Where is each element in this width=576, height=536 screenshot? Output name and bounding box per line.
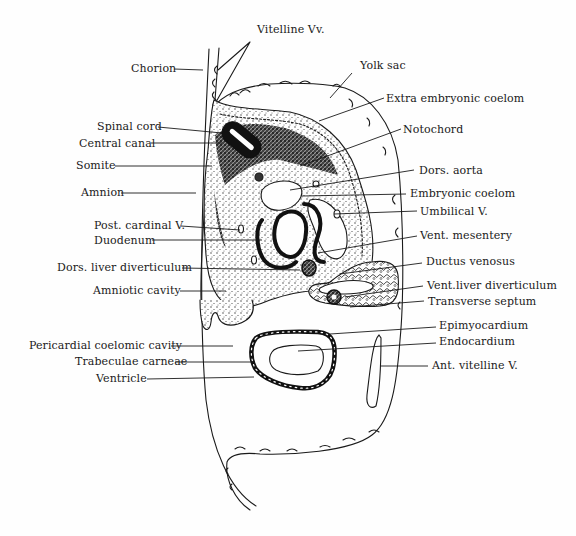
label-umbilical-v: Umbilical V. <box>420 206 488 218</box>
embryo-cross-section-diagram: Vitelline Vv. Chorion Yolk sac Extra emb… <box>0 0 576 536</box>
label-ventricle: Ventricle <box>96 373 147 385</box>
epimyocardium <box>251 332 334 389</box>
label-ant-vitelline-v: Ant. vitelline V. <box>432 360 518 372</box>
label-spinal-cord: Spinal cord <box>97 121 162 133</box>
amnion-fold <box>200 300 253 329</box>
label-duodenum: Duodenum <box>94 235 155 247</box>
label-vent-liver-diverticulum: Vent.liver diverticulum <box>427 280 557 292</box>
post-cardinal-vein <box>239 225 244 233</box>
label-endocardium: Endocardium <box>439 336 515 348</box>
label-pericardial-coelomic-cavity: Pericardial coelomic cavity <box>29 340 182 352</box>
label-vitelline-vv: Vitelline Vv. <box>257 24 325 36</box>
label-amnion: Amnion <box>81 187 124 199</box>
label-embryonic-coelom: Embryonic coelom <box>410 188 515 200</box>
vent-mesentery-vessel <box>302 260 316 276</box>
notochord <box>255 173 263 181</box>
label-extra-embryonic-coelom: Extra embryonic coelom <box>386 93 524 105</box>
label-notochord: Notochord <box>403 124 463 136</box>
label-post-cardinal-v: Post. cardinal V. <box>94 220 185 232</box>
label-somite: Somite <box>76 160 116 172</box>
label-ductus-venosus: Ductus venosus <box>426 256 515 268</box>
label-vent-mesentery: Vent. mesentery <box>420 230 512 242</box>
label-dors-liver-diverticulum: Dors. liver diverticulum <box>57 262 192 274</box>
label-epimyocardium: Epimyocardium <box>439 320 528 332</box>
label-central-canal: Central canal <box>79 138 155 150</box>
gut-loop <box>274 211 306 256</box>
label-chorion: Chorion <box>131 63 176 75</box>
ant-vitelline-vein <box>367 335 381 407</box>
label-amniotic-cavity: Amniotic cavity <box>93 285 181 297</box>
label-trabeculae-carneae: Trabeculae carneae <box>75 356 187 368</box>
label-transverse-septum: Transverse septum <box>428 296 536 308</box>
label-yolk-sac: Yolk sac <box>360 60 406 72</box>
label-dors-aorta: Dors. aorta <box>419 165 483 177</box>
